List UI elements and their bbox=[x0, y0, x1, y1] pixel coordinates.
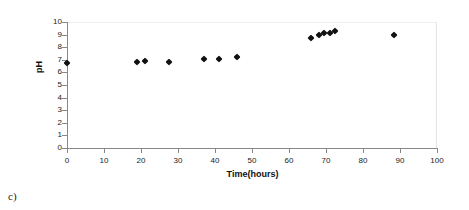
y-tick-mark bbox=[62, 22, 68, 23]
x-tick-mark bbox=[252, 148, 253, 153]
x-tick-mark bbox=[141, 148, 142, 153]
y-tick-mark bbox=[62, 110, 68, 111]
y-tick-label-text: 4 bbox=[44, 94, 62, 102]
x-axis-title: Time(hours) bbox=[67, 169, 438, 179]
top-gridline bbox=[67, 22, 437, 23]
x-tick-label: 20 bbox=[126, 156, 156, 165]
x-tick-label-text: 50 bbox=[237, 156, 267, 165]
x-tick-label-text: 20 bbox=[126, 156, 156, 165]
x-tick-mark bbox=[104, 148, 105, 153]
y-tick-label: 2 bbox=[40, 119, 62, 127]
figure-caption: c) bbox=[8, 190, 17, 202]
y-tick-label-text: 6 bbox=[44, 68, 62, 76]
y-tick-label-text: 7 bbox=[44, 56, 62, 64]
x-tick-label-text: 30 bbox=[163, 156, 193, 165]
x-tick-label: 10 bbox=[89, 156, 119, 165]
y-tick-label-text: 9 bbox=[44, 31, 62, 39]
y-tick-mark bbox=[62, 35, 68, 36]
y-tick-label-text: 3 bbox=[44, 106, 62, 114]
x-tick-label-text: 0 bbox=[52, 156, 82, 165]
y-axis-title: pH bbox=[34, 46, 44, 88]
x-tick-label: 60 bbox=[274, 156, 304, 165]
y-tick-label-text: 8 bbox=[44, 43, 62, 51]
x-tick-mark bbox=[326, 148, 327, 153]
x-tick-label: 90 bbox=[385, 156, 415, 165]
y-tick-label: 10 bbox=[40, 18, 62, 26]
x-tick-label-text: 90 bbox=[385, 156, 415, 165]
y-tick-mark bbox=[62, 123, 68, 124]
x-tick-label: 50 bbox=[237, 156, 267, 165]
y-tick-label: 4 bbox=[40, 94, 62, 102]
x-tick-label: 30 bbox=[163, 156, 193, 165]
x-tick-label-text: 80 bbox=[348, 156, 378, 165]
y-tick-label-text: 2 bbox=[44, 119, 62, 127]
x-tick-label-text: 40 bbox=[200, 156, 230, 165]
x-tick-label: 80 bbox=[348, 156, 378, 165]
x-tick-mark bbox=[363, 148, 364, 153]
y-tick-label-text: 0 bbox=[44, 144, 62, 152]
y-tick-mark bbox=[62, 85, 68, 86]
y-tick-label: 1 bbox=[40, 131, 62, 139]
y-tick-mark bbox=[62, 98, 68, 99]
x-tick-label: 0 bbox=[52, 156, 82, 165]
plot-frame bbox=[67, 22, 437, 148]
y-tick-mark bbox=[62, 47, 68, 48]
x-tick-mark bbox=[215, 148, 216, 153]
y-tick-label: 3 bbox=[40, 106, 62, 114]
x-tick-label-text: 60 bbox=[274, 156, 304, 165]
y-tick-mark bbox=[62, 135, 68, 136]
x-tick-mark bbox=[400, 148, 401, 153]
x-tick-mark bbox=[289, 148, 290, 153]
y-tick-label: 9 bbox=[40, 31, 62, 39]
x-tick-label: 40 bbox=[200, 156, 230, 165]
x-tick-mark bbox=[67, 148, 68, 153]
y-tick-label: 0 bbox=[40, 144, 62, 152]
x-tick-mark bbox=[437, 148, 438, 153]
x-tick-label: 100 bbox=[422, 156, 452, 165]
x-tick-label-text: 10 bbox=[89, 156, 119, 165]
y-tick-label-text: 5 bbox=[44, 81, 62, 89]
y-tick-label-text: 1 bbox=[44, 131, 62, 139]
y-tick-label-text: 10 bbox=[44, 18, 62, 26]
x-tick-label-text: 70 bbox=[311, 156, 341, 165]
x-tick-label-text: 100 bbox=[422, 156, 452, 165]
x-tick-mark bbox=[178, 148, 179, 153]
y-tick-mark bbox=[62, 72, 68, 73]
ph-vs-time-scatter-chart: 012345678910 0102030405060708090100 pH T… bbox=[0, 0, 469, 185]
x-tick-label: 70 bbox=[311, 156, 341, 165]
